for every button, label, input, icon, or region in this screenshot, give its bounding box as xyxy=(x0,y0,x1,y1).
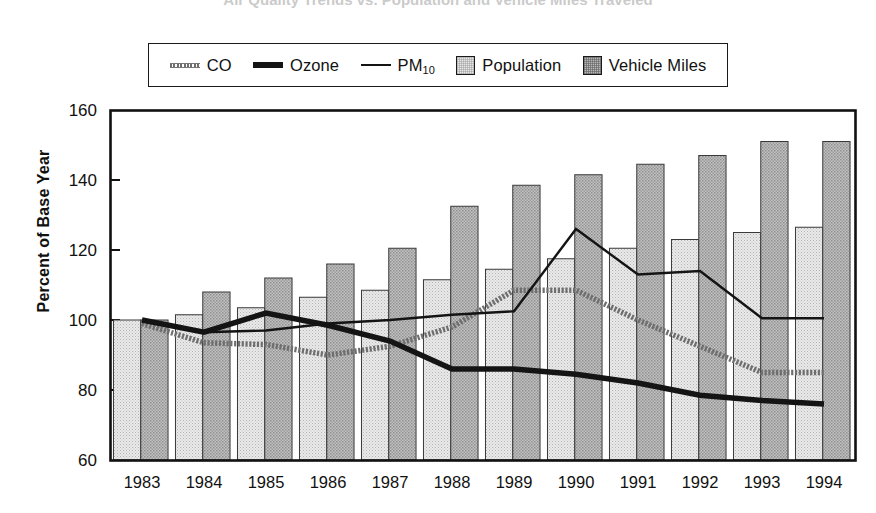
bar-vehicle-miles xyxy=(699,156,726,461)
y-axis-tick-label: 160 xyxy=(69,101,97,120)
bar-vehicle-miles xyxy=(513,185,540,460)
x-axis-tick-label: 1994 xyxy=(806,473,843,491)
bar-vehicle-miles xyxy=(141,320,168,460)
bar-vehicle-miles xyxy=(823,142,850,461)
x-axis-tick-label: 1991 xyxy=(620,473,657,491)
x-axis-tick-label: 1983 xyxy=(124,473,161,491)
bar-population xyxy=(113,320,140,460)
chart-figure: Air Quality Trends vs. Population and Ve… xyxy=(0,0,876,513)
y-axis-tick-label: 120 xyxy=(69,241,97,260)
x-axis-tick-label: 1985 xyxy=(248,473,285,491)
bar-population xyxy=(609,248,636,460)
bar-vehicle-miles xyxy=(761,142,788,461)
y-axis-tick-label: 60 xyxy=(78,451,97,470)
x-axis-tick-label: 1984 xyxy=(186,473,223,491)
bar-vehicle-miles xyxy=(637,164,664,460)
y-axis-tick-label: 100 xyxy=(69,311,97,330)
chart-plot-area: 6080100120140160198319841985198619871988… xyxy=(0,0,876,513)
bar-population xyxy=(795,227,822,460)
bar-vehicle-miles xyxy=(389,248,416,460)
bar-vehicle-miles xyxy=(265,278,292,460)
x-axis-tick-label: 1988 xyxy=(434,473,471,491)
x-axis-tick-label: 1993 xyxy=(744,473,781,491)
bar-vehicle-miles xyxy=(451,206,478,460)
x-axis-tick-label: 1992 xyxy=(682,473,719,491)
bar-population xyxy=(361,290,388,460)
x-axis-tick-label: 1986 xyxy=(310,473,347,491)
bar-population xyxy=(733,233,760,461)
x-axis-tick-label: 1987 xyxy=(372,473,409,491)
x-axis-tick-label: 1990 xyxy=(558,473,595,491)
bar-vehicle-miles xyxy=(575,175,602,460)
y-axis-tick-label: 80 xyxy=(78,381,97,400)
bar-vehicle-miles xyxy=(327,264,354,460)
y-axis-tick-label: 140 xyxy=(69,171,97,190)
bar-population xyxy=(423,280,450,460)
bar-vehicle-miles xyxy=(203,292,230,460)
x-axis-tick-label: 1989 xyxy=(496,473,533,491)
